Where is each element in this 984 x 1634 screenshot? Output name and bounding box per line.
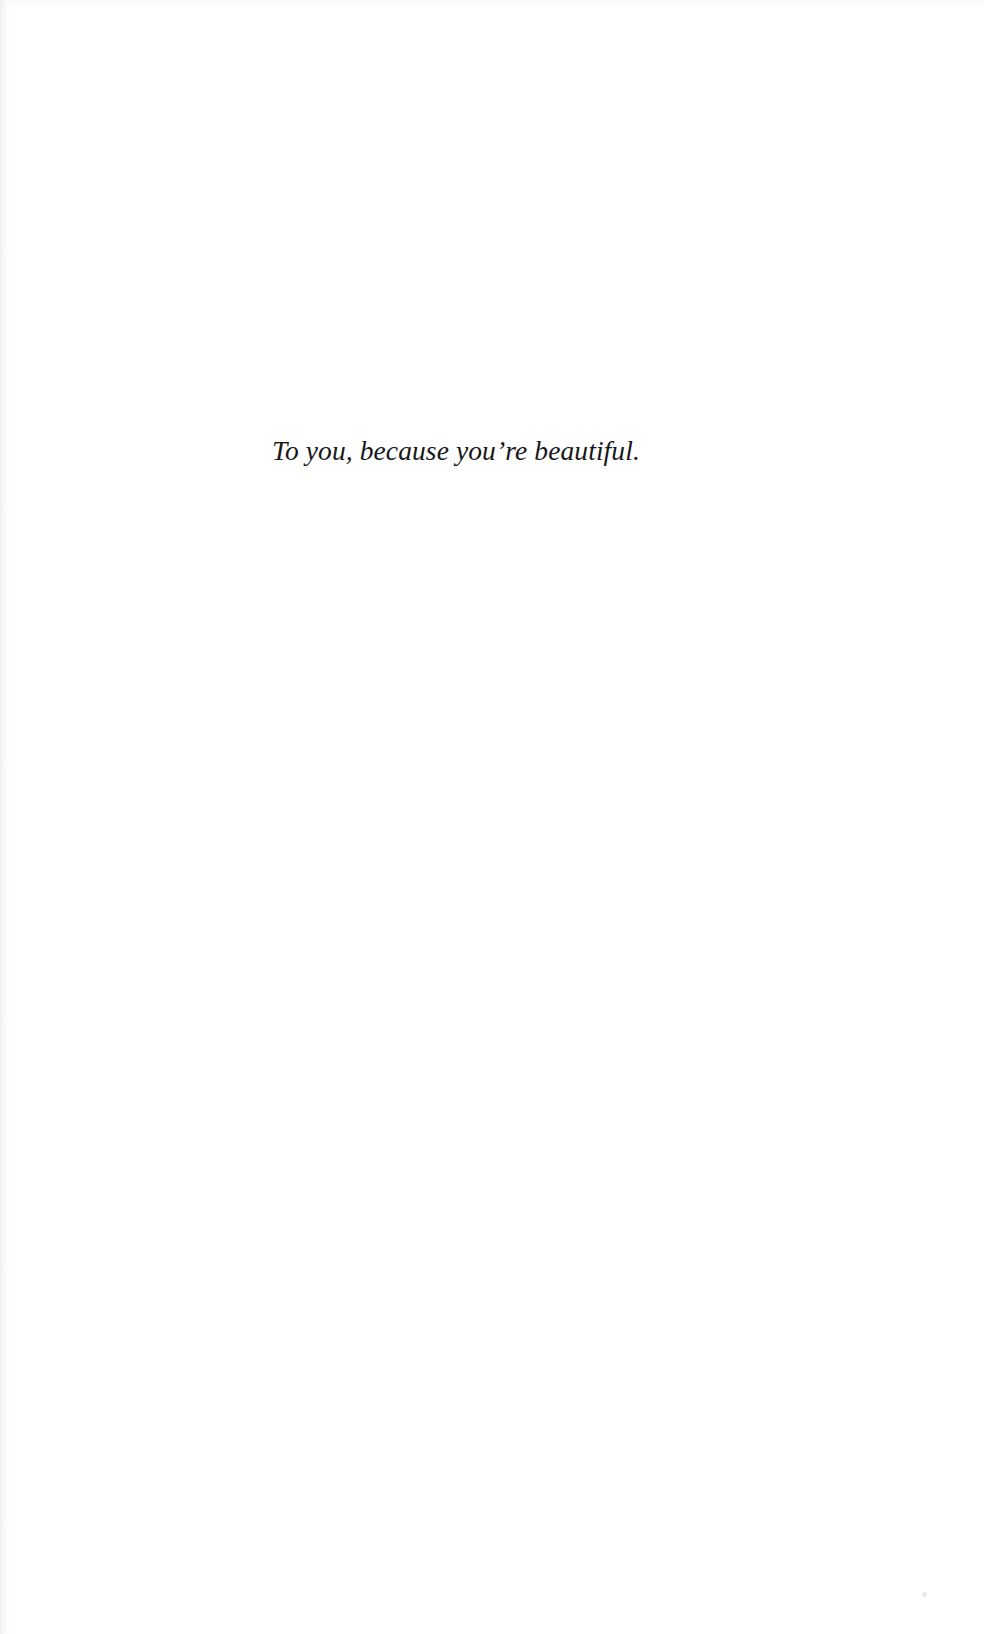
dedication-block: To you, because you’re beautiful. <box>0 432 912 469</box>
scan-top-edge-shadow <box>0 0 984 10</box>
scan-gutter-shadow <box>0 0 15 1634</box>
dedication-page: To you, because you’re beautiful. <box>0 0 984 1634</box>
dedication-text: To you, because you’re beautiful. <box>272 432 640 469</box>
scan-speck <box>922 1592 927 1597</box>
